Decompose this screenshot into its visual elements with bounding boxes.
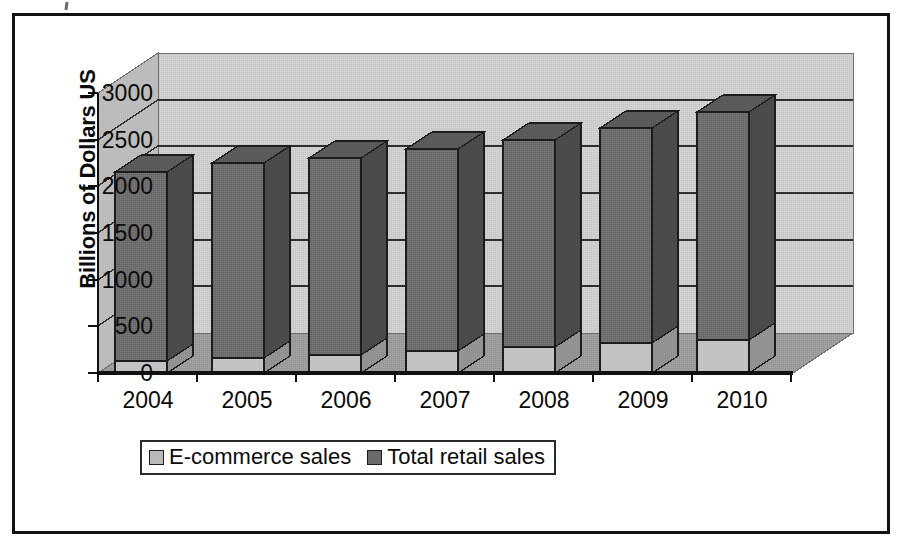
legend-label-total-retail-sales: Total retail sales [387,446,545,468]
x-tick-label-2009: 2009 [603,389,683,412]
legend-swatch-icon-total-retail-sales [367,450,382,465]
legend-label-ecommerce-sales: E-commerce sales [169,446,351,468]
x-tick-label-2007: 2007 [405,389,485,412]
chart-legend: E-commerce sales Total retail sales [140,440,556,475]
x-tick-label-2006: 2006 [306,389,386,412]
legend-item-ecommerce-sales[interactable]: E-commerce sales [149,446,351,468]
x-tick-label-2008: 2008 [504,389,584,412]
x-tick-label-2005: 2005 [207,389,287,412]
x-tick-label-2010: 2010 [702,389,782,412]
x-tick-label-2004: 2004 [108,389,188,412]
scan-artifact-speck [64,2,68,10]
figure-frame: Billions of Dollars US 3000 2500 2000 15… [12,13,890,534]
legend-item-total-retail-sales[interactable]: Total retail sales [367,446,545,468]
legend-swatch-icon-ecommerce-sales [149,450,164,465]
